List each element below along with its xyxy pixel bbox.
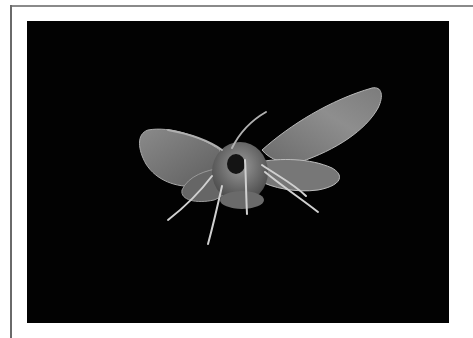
moth-illustration: [27, 21, 449, 323]
moth-body: [212, 142, 268, 209]
frame-border-top: [10, 5, 473, 7]
frame-border-left: [10, 5, 12, 338]
right-forewing: [262, 88, 381, 163]
moth-photo: [27, 21, 449, 323]
